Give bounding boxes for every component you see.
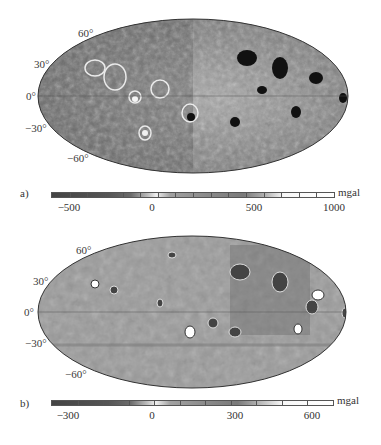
colorbar-unit-b: mgal — [337, 394, 359, 406]
panel-a: 60° 30° 0° −30° −60° a) mgal −500 0 500 … — [0, 0, 381, 225]
lat-label-60: 60° — [76, 244, 91, 256]
cbar-a-label-500: 500 — [246, 201, 263, 213]
colorbar-b — [51, 400, 334, 406]
lat-label-0: 0° — [26, 90, 36, 102]
panel-label-a: a) — [20, 187, 29, 199]
lat-label-60: 60° — [78, 27, 93, 39]
gravity-map-b — [0, 225, 381, 400]
lat-label-neg60: −60° — [65, 368, 87, 380]
gravity-map-a — [0, 0, 381, 180]
lat-label-neg60: −60° — [67, 152, 89, 164]
cbar-a-label-0: 0 — [149, 201, 155, 213]
panel-label-b: b) — [20, 397, 29, 409]
cbar-b-label-neg300: −300 — [57, 409, 80, 421]
lat-label-neg30: −30° — [25, 337, 47, 349]
cbar-b-label-600: 600 — [304, 409, 321, 421]
panel-b: 60° 30° 0° −30° −60° b) mgal −300 0 300 … — [0, 225, 381, 445]
lat-label-neg30: −30° — [25, 122, 47, 134]
cbar-b-label-300: 300 — [227, 409, 244, 421]
colorbar-unit-a: mgal — [338, 186, 360, 198]
cbar-a-label-neg500: −500 — [58, 201, 81, 213]
lat-label-30: 30° — [34, 58, 49, 70]
lat-label-30: 30° — [33, 275, 48, 287]
lat-label-0: 0° — [24, 306, 34, 318]
cbar-a-label-1000: 1000 — [323, 201, 345, 213]
cbar-b-label-0: 0 — [149, 409, 155, 421]
colorbar-a — [51, 192, 335, 198]
